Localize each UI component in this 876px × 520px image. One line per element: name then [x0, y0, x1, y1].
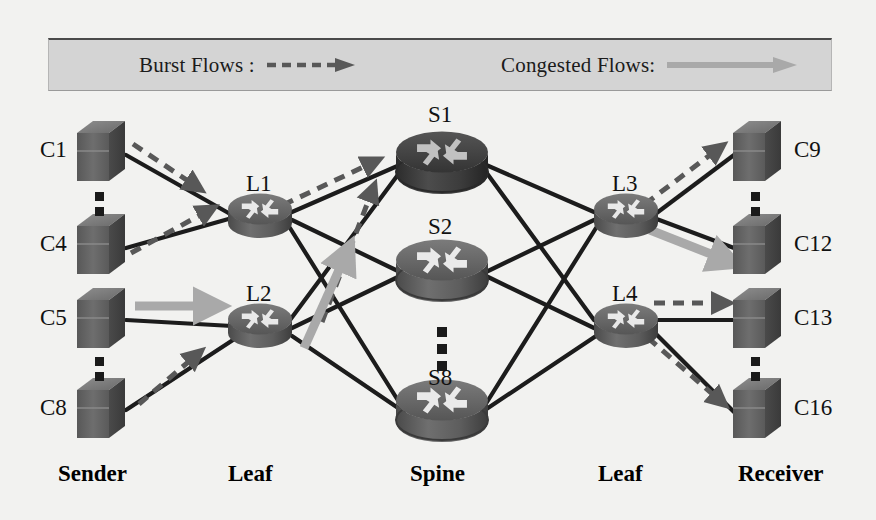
- tier-label-sender: Sender: [58, 462, 127, 485]
- tier-label-receiver: Receiver: [738, 462, 824, 485]
- server-c1[interactable]: [77, 121, 125, 181]
- server-c4[interactable]: [77, 214, 125, 274]
- label-l2: L2: [246, 282, 272, 305]
- senders-layer: [77, 121, 125, 438]
- cong-l3-c12: [650, 230, 731, 262]
- label-c12: C12: [794, 232, 832, 255]
- label-c9: C9: [794, 138, 821, 161]
- label-l1: L1: [246, 172, 272, 195]
- label-c13: C13: [794, 306, 832, 329]
- spine-switches-layer: [396, 132, 488, 443]
- label-c5: C5: [40, 306, 67, 329]
- label-c16: C16: [794, 396, 832, 419]
- topology-svg: [0, 0, 876, 520]
- label-c1: C1: [40, 138, 67, 161]
- router-l3[interactable]: [594, 194, 658, 239]
- tier-label-leaf-right: Leaf: [598, 462, 643, 485]
- label-s2: S2: [428, 215, 452, 238]
- router-s1[interactable]: [396, 132, 488, 195]
- server-c13[interactable]: [733, 288, 781, 348]
- server-c12[interactable]: [733, 214, 781, 274]
- sender-ellipsis-2: [95, 357, 104, 381]
- tier-label-leaf-left: Leaf: [228, 462, 273, 485]
- receivers-layer: [733, 121, 781, 438]
- link-c1-l1: [126, 155, 232, 215]
- link-c5-l2: [126, 320, 232, 326]
- link-s2-l3: [486, 220, 594, 272]
- burst-c4-l1: [131, 208, 213, 253]
- diagram-canvas: Burst Flows : Congested Flows:: [0, 0, 876, 520]
- server-c8[interactable]: [77, 378, 125, 438]
- server-c9[interactable]: [733, 121, 781, 181]
- router-l1[interactable]: [228, 194, 292, 239]
- receiver-ellipsis-1: [751, 192, 760, 216]
- label-s8: S8: [428, 366, 452, 389]
- link-s1-l3: [484, 164, 594, 212]
- label-c8: C8: [40, 396, 67, 419]
- tier-label-spine: Spine: [410, 462, 465, 485]
- label-l4: L4: [612, 282, 638, 305]
- label-l3: L3: [612, 172, 638, 195]
- sender-ellipsis-1: [95, 192, 104, 216]
- label-c4: C4: [40, 232, 67, 255]
- server-c5[interactable]: [77, 288, 125, 348]
- link-s8-l4: [482, 336, 596, 412]
- server-c16[interactable]: [733, 378, 781, 438]
- link-c4-l1: [126, 218, 232, 248]
- burst-l4-c16: [648, 338, 724, 404]
- router-s2[interactable]: [396, 240, 488, 303]
- label-s1: S1: [428, 103, 452, 126]
- router-l2[interactable]: [228, 304, 292, 349]
- receiver-ellipsis-2: [751, 357, 760, 381]
- router-l4[interactable]: [594, 304, 658, 349]
